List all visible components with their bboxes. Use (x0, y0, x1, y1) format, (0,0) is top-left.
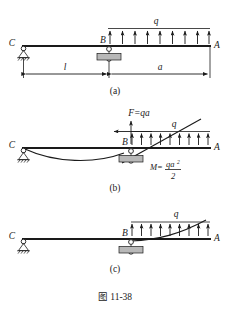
load-label-a: q (154, 16, 159, 26)
node-label-c-c: C (9, 231, 16, 241)
panel-a: q C B A (9, 16, 220, 97)
support-b-a: B (97, 35, 121, 62)
load-label-b: q (172, 119, 177, 129)
panel-label-c: (c) (110, 264, 121, 275)
dimension-label-a-a: a (158, 62, 163, 72)
moment-formula-b: M= qa 2 2 (149, 159, 181, 181)
distributed-load-b: q (131, 119, 210, 145)
node-label-b-b: B (122, 137, 128, 147)
distributed-load-c: q (131, 209, 210, 236)
node-label-c-a: C (9, 38, 16, 48)
panel-b: F=qa q (9, 108, 220, 194)
support-c-a: C (9, 38, 30, 61)
node-label-b-c: B (122, 228, 128, 238)
moment-numerator-exponent: 2 (177, 159, 180, 165)
node-label-b-a: B (100, 35, 106, 45)
panel-label-b: (b) (109, 183, 120, 194)
node-label-a-a: A (213, 40, 220, 50)
moment-denominator: 2 (171, 171, 176, 181)
load-label-c: q (174, 209, 179, 219)
node-label-a-b: A (213, 142, 220, 152)
support-c-b: C (9, 140, 30, 163)
node-label-c-b: C (9, 140, 16, 150)
dimensions-a: l a (24, 47, 211, 78)
figure-caption: 图 11-38 (98, 292, 132, 302)
dimension-label-l-a: l (64, 62, 67, 72)
distributed-load-a: q (108, 16, 210, 44)
moment-numerator: qa (166, 159, 175, 169)
support-c-c: C (9, 231, 30, 254)
deflection-curve-b (25, 149, 124, 160)
moment-label-prefix: M= (149, 162, 163, 172)
panel-c: q C B A (c) (9, 209, 220, 275)
point-force-b: F=qa (127, 108, 150, 144)
deflection-curve-c (131, 220, 206, 241)
panel-label-a: (a) (110, 86, 121, 97)
node-label-a-c: A (213, 233, 220, 243)
figure-container: q C B A (0, 0, 231, 317)
force-label-b: F=qa (127, 108, 150, 118)
beam-superposition-figure: q C B A (0, 0, 231, 317)
